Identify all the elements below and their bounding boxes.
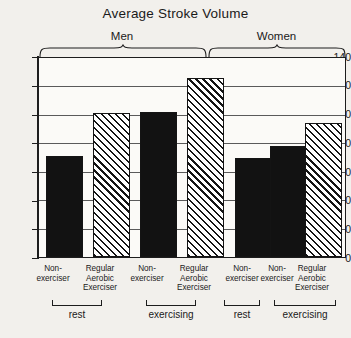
bar-men-exercising-nonexerciser[interactable] [140,112,177,257]
bracket-label-men-exercising: exercising [141,309,201,320]
bar-women-exercising-regularexerciser[interactable] [305,123,342,257]
bracket-women-exercising [274,300,336,306]
group-label-men: Men [38,30,206,42]
bracket-men-exercising [146,300,196,306]
bracket-men-rest [52,300,102,306]
chart-page: Average Stroke Volume Men Women 140 120 … [0,0,351,338]
bar-women-exercising-nonexerciser[interactable] [270,146,307,257]
bracket-label-women-rest: rest [212,309,272,320]
chart-title: Average Stroke Volume [0,6,351,21]
y-tick-mark-0 [32,258,39,259]
bar-men-exercising-regularexerciser[interactable] [187,78,224,257]
bracket-label-women-exercising: exercising [275,309,335,320]
plot-area [38,57,346,258]
bar-men-rest-regularexerciser[interactable] [93,113,130,257]
brace-men-icon [38,44,208,58]
bar-men-rest-nonexerciser[interactable] [46,156,83,257]
group-label-women: Women [207,30,346,42]
x-label-bar-6: Regular Aerobic Exerciser [284,264,340,293]
bracket-women-rest [224,300,260,306]
bracket-label-men-rest: rest [47,309,107,320]
bar-women-rest-nonexerciser[interactable] [235,158,272,258]
